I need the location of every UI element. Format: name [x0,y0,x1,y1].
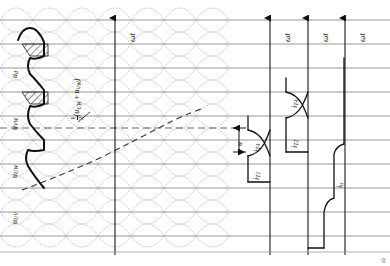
signal-label-u-uw: uUW [11,165,20,178]
figure-caption: a) [380,258,386,263]
current-label-i-t2: iT2 [291,140,300,148]
signal-label-u-uv: uUV [11,212,20,224]
axis-lines [115,18,345,255]
trace-iu-block [324,144,344,248]
diagram-vector-layer [0,0,390,266]
fraction-one-half: 1 2 [70,117,85,121]
axis-label-4: ωt [358,33,367,42]
thyristor-current-traces [248,58,344,248]
current-label-i-t4-left: iT4 [253,144,262,152]
current-label-i-t4-upper: iT4 [291,100,300,108]
signal-label-u-d: ud [11,71,20,78]
mean-value-dashed-curve [22,108,204,190]
figure-canvas: ωt ωt ωt ωt ud uVW uUW uUV 1 2 (uUW+uVW)… [0,0,390,266]
axis-label-1: ωt [128,33,137,42]
axis-label-3: ωt [321,33,330,42]
axis-label-2: ωt [283,33,292,42]
current-label-i-u: iu [336,183,345,188]
mean-value-label: 1 2 (uUW+uVW) [70,78,85,120]
current-label-i-t1: iT1 [253,172,262,180]
overlap-angle-label: u [236,142,244,146]
signal-label-u-vw: uVW [11,118,20,130]
